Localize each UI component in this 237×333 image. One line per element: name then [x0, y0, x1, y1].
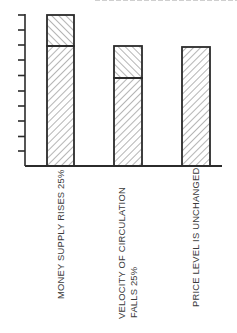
bar-velocity	[114, 46, 142, 166]
bar2-label-line1: VELOCITY OF CIRCULATION	[116, 187, 128, 319]
bar2-base-segment	[114, 78, 142, 166]
bar1-increase-segment	[47, 15, 74, 46]
bar3-label: PRICE LEVEL IS UNCHANGED	[190, 168, 202, 307]
bar-money-supply	[47, 15, 74, 166]
bar3-base-segment	[182, 47, 210, 166]
y-axis	[18, 14, 25, 166]
bar1-label: MONEY SUPPLY RISES 25%	[55, 170, 67, 299]
bar2-label: VELOCITY OF CIRCULATION FALLS 25%	[116, 187, 140, 319]
bar2-label-line2: FALLS 25%	[128, 187, 140, 319]
bar1-base-segment	[47, 46, 74, 166]
y-axis-ticks	[18, 15, 25, 151]
bar2-decrease-segment	[114, 46, 142, 78]
bar-price-level	[182, 47, 210, 166]
